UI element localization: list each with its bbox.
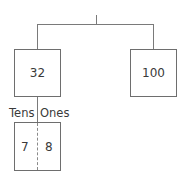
left-branch-line xyxy=(37,24,38,49)
place-value-divider-solid xyxy=(37,97,38,122)
number-box-left: 32 xyxy=(14,49,61,97)
branch-connector xyxy=(37,24,154,25)
number-box-right-value: 100 xyxy=(142,66,165,80)
place-value-divider-dashed xyxy=(37,123,38,170)
tens-digit: 7 xyxy=(21,141,29,153)
number-box-left-value: 32 xyxy=(30,66,45,80)
number-box-right: 100 xyxy=(130,49,177,97)
right-branch-line xyxy=(153,24,154,49)
tens-label: Tens xyxy=(9,108,34,120)
ones-label: Ones xyxy=(40,108,69,120)
ones-digit: 8 xyxy=(45,141,53,153)
